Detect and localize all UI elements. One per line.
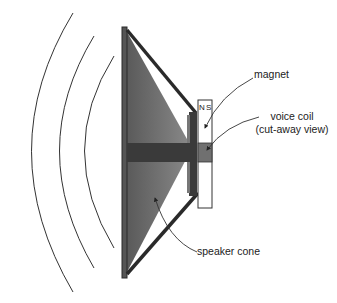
voice-coil-label: voice coil (cut-away view)	[249, 110, 335, 136]
pole-s-label: S	[206, 101, 211, 114]
voice-coil-label-line1: voice coil	[249, 110, 335, 123]
magnet-label: magnet	[254, 68, 289, 81]
speaker-cone-label: speaker cone	[197, 245, 260, 258]
voice-coil-former	[127, 143, 197, 162]
sound-wave-middle	[60, 36, 95, 268]
sound-wave-inner	[85, 56, 115, 248]
sound-wave-outer	[32, 13, 74, 292]
pole-n-label: N	[199, 101, 205, 114]
sound-waves	[32, 13, 115, 292]
voice-coil-label-line2: (cut-away view)	[249, 123, 335, 136]
speaker-diagram	[0, 0, 337, 303]
front-frame	[122, 27, 127, 278]
